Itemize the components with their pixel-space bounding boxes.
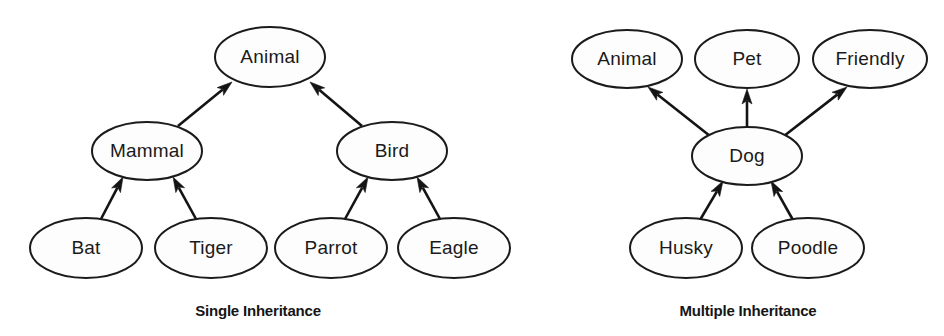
node-label: Poodle bbox=[778, 237, 838, 258]
node-friendly[interactable]: Friendly bbox=[813, 30, 927, 88]
node-label: Pet bbox=[732, 48, 762, 69]
edge-bird-to-animal bbox=[310, 82, 362, 126]
node-husky[interactable]: Husky bbox=[630, 218, 742, 278]
node-label: Dog bbox=[729, 145, 764, 166]
node-label: Bat bbox=[71, 237, 101, 258]
edge-dog-to-animal bbox=[648, 87, 710, 136]
nodes-layer: AnimalMammalBirdBatTigerParrotEagleAnima… bbox=[30, 27, 927, 278]
edge-line bbox=[101, 188, 117, 219]
node-label: Bird bbox=[375, 140, 410, 161]
node-tiger[interactable]: Tiger bbox=[155, 218, 267, 278]
edge-mammal-to-animal bbox=[178, 82, 232, 126]
node-animal2[interactable]: Animal bbox=[572, 30, 682, 88]
node-eagle[interactable]: Eagle bbox=[398, 218, 510, 278]
node-bat[interactable]: Bat bbox=[30, 218, 142, 278]
node-dog[interactable]: Dog bbox=[692, 127, 802, 185]
arrow-head-icon bbox=[711, 181, 723, 196]
edge-line bbox=[777, 191, 793, 220]
edge-dog-to-pet bbox=[742, 89, 752, 127]
captions-layer: Single InheritanceMultiple Inheritance bbox=[195, 302, 816, 319]
diagram-canvas-root: AnimalMammalBirdBatTigerParrotEagleAnima… bbox=[0, 0, 944, 336]
diagram-caption-single-inheritance: Single Inheritance bbox=[195, 302, 321, 319]
arrow-head-icon bbox=[771, 181, 783, 197]
edge-eagle-to-bird bbox=[417, 177, 440, 219]
edge-poodle-to-dog bbox=[771, 181, 793, 220]
node-label: Parrot bbox=[305, 237, 358, 258]
edge-line bbox=[345, 188, 362, 219]
node-label: Friendly bbox=[835, 48, 904, 69]
node-label: Animal bbox=[240, 46, 299, 67]
node-label: Eagle bbox=[429, 237, 479, 258]
edge-line bbox=[700, 191, 717, 220]
edge-line bbox=[178, 90, 223, 126]
edge-line bbox=[423, 188, 440, 219]
edge-line bbox=[657, 94, 710, 136]
edge-bat-to-mammal bbox=[101, 177, 123, 219]
edge-parrot-to-bird bbox=[345, 177, 368, 219]
node-label: Mammal bbox=[110, 140, 184, 161]
node-label: Tiger bbox=[189, 237, 233, 258]
node-label: Animal bbox=[597, 48, 656, 69]
node-poodle[interactable]: Poodle bbox=[752, 218, 864, 278]
node-parrot[interactable]: Parrot bbox=[275, 218, 387, 278]
edge-dog-to-friendly bbox=[784, 87, 847, 136]
node-label: Husky bbox=[659, 237, 713, 258]
edge-line bbox=[179, 188, 196, 219]
node-animal[interactable]: Animal bbox=[215, 27, 325, 87]
diagram-caption-multiple-inheritance: Multiple Inheritance bbox=[680, 302, 817, 319]
edge-tiger-to-mammal bbox=[173, 177, 196, 219]
inheritance-diagram-svg: AnimalMammalBirdBatTigerParrotEagleAnima… bbox=[0, 0, 944, 336]
node-mammal[interactable]: Mammal bbox=[92, 122, 202, 180]
edge-line bbox=[319, 90, 362, 126]
node-bird[interactable]: Bird bbox=[337, 122, 447, 180]
node-pet[interactable]: Pet bbox=[695, 30, 799, 88]
edge-husky-to-dog bbox=[700, 181, 723, 220]
edge-line bbox=[784, 94, 838, 136]
